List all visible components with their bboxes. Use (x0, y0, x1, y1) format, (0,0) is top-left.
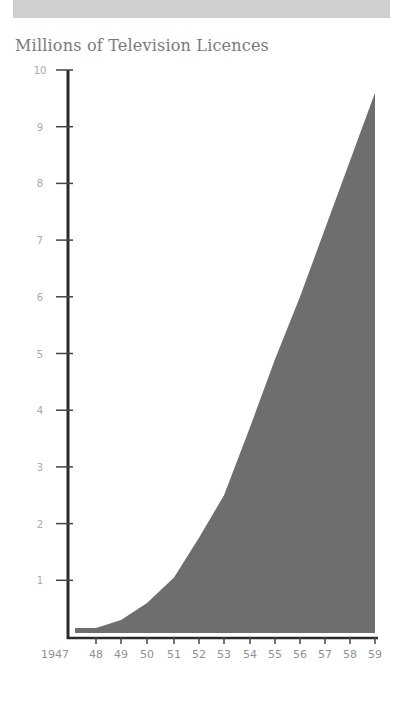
x-tick-label: 49 (114, 648, 128, 661)
y-tick-label: 2 (37, 519, 43, 530)
y-tick-label: 10 (34, 65, 47, 76)
x-tick-label: 48 (89, 648, 103, 661)
x-tick-label: 52 (192, 648, 206, 661)
x-tick-label: 54 (243, 648, 257, 661)
x-tick-label: 59 (368, 648, 382, 661)
x-tick-label: 50 (140, 648, 154, 661)
x-tick-label: 55 (268, 648, 282, 661)
area-series (75, 93, 375, 633)
y-tick-label: 8 (37, 178, 43, 189)
y-axis: 12345678910 (34, 65, 73, 639)
area-chart: 12345678910 1947484950515253545556575859 (0, 0, 405, 712)
y-tick-label: 6 (37, 292, 43, 303)
x-tick-label: 51 (167, 648, 181, 661)
y-tick-label: 9 (37, 122, 43, 133)
x-tick-label: 1947 (41, 648, 69, 661)
y-tick-label: 1 (37, 575, 43, 586)
x-tick-label: 56 (293, 648, 307, 661)
y-tick-label: 3 (37, 462, 43, 473)
x-tick-label: 57 (318, 648, 332, 661)
y-tick-label: 5 (37, 349, 43, 360)
x-tick-label: 58 (343, 648, 357, 661)
x-axis: 1947484950515253545556575859 (41, 637, 382, 661)
x-tick-label: 53 (217, 648, 231, 661)
y-tick-label: 7 (37, 235, 43, 246)
y-tick-label: 4 (37, 405, 43, 416)
